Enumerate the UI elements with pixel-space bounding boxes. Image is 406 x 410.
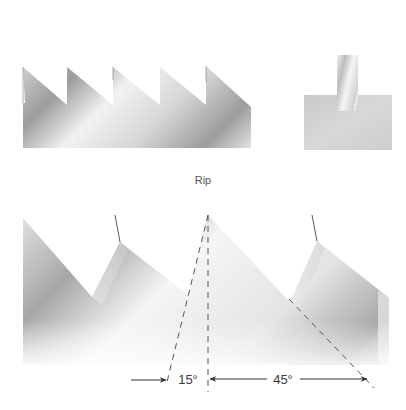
bottom-saw-blade (23, 215, 389, 365)
caption-rip: Rip (195, 174, 212, 186)
rake-angle-dimension: 15° (131, 372, 198, 387)
top-saw-teeth (23, 66, 251, 148)
saw-blade-edge (337, 55, 358, 111)
kerf-end-view (304, 55, 392, 150)
bottom-fade (23, 215, 389, 365)
bevel-angle-label: 45° (273, 372, 293, 387)
bevel-angle-dimension: 45° (210, 372, 367, 387)
saw-tooth-diagram: Rip 15° 45° (0, 0, 406, 410)
rake-angle-label: 15° (178, 372, 198, 387)
top-saw-blade (23, 66, 251, 148)
